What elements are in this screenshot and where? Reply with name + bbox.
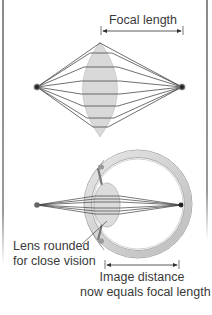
left-point-source bbox=[33, 83, 40, 90]
image-distance-dimension bbox=[105, 260, 179, 269]
lens-rounded-label-line2: for close vision bbox=[13, 254, 96, 269]
convex-lens bbox=[83, 42, 118, 137]
near-object-point bbox=[34, 202, 40, 208]
focal-length-label: Focal length bbox=[100, 13, 186, 28]
eye-focus-diagram: Focal length Lens rounded for close visi… bbox=[0, 0, 212, 315]
image-distance-label-line2: now equals focal length bbox=[80, 285, 204, 300]
right-focal-point bbox=[178, 83, 185, 90]
lens-rounded-label-line1: Lens rounded bbox=[13, 239, 89, 254]
image-distance-label-line1: Image distance bbox=[80, 270, 204, 285]
eye-lens bbox=[94, 183, 120, 227]
retina-focal-point bbox=[179, 203, 184, 208]
